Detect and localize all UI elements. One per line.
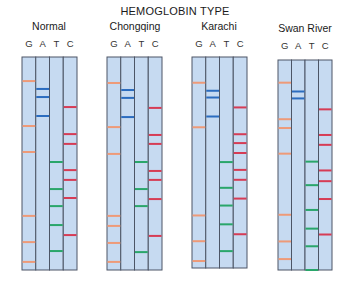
band-a	[36, 115, 49, 117]
lane-t	[135, 57, 149, 270]
band-g	[279, 240, 292, 242]
band-g	[279, 214, 292, 216]
band-c	[64, 169, 77, 171]
band-c	[64, 179, 77, 181]
band-g	[23, 151, 36, 153]
band-c	[149, 198, 162, 200]
lane-a	[206, 57, 220, 268]
band-t	[135, 205, 148, 207]
band-c	[64, 133, 77, 135]
lane-g	[192, 57, 206, 268]
band-t	[50, 250, 63, 252]
lane-c	[319, 60, 333, 270]
gel-karachi	[192, 57, 247, 268]
band-c	[149, 107, 162, 109]
band-a	[36, 88, 49, 90]
band-g	[23, 215, 36, 217]
band-c	[319, 169, 332, 171]
band-g	[108, 153, 121, 155]
band-g	[193, 240, 206, 242]
band-c	[319, 198, 332, 200]
band-t	[220, 205, 233, 207]
band-t	[135, 161, 148, 163]
band-g	[23, 261, 36, 263]
band-c	[319, 134, 332, 136]
band-c	[234, 142, 247, 144]
band-a	[206, 116, 219, 118]
band-c	[234, 106, 247, 108]
band-t	[135, 188, 148, 190]
lane-a	[121, 57, 135, 270]
band-t	[50, 224, 63, 226]
band-c	[319, 108, 332, 110]
lane-g	[278, 60, 292, 270]
band-c	[64, 234, 77, 236]
band-c	[64, 197, 77, 199]
band-g	[23, 80, 36, 82]
band-a	[121, 97, 134, 99]
band-t	[220, 187, 233, 189]
band-c	[234, 179, 247, 181]
band-c	[319, 144, 332, 146]
band-g	[108, 126, 121, 128]
lane-t	[50, 57, 64, 270]
band-c	[234, 233, 247, 235]
band-g	[193, 126, 206, 128]
band-c	[234, 198, 247, 200]
band-t	[306, 228, 319, 230]
band-c	[319, 180, 332, 182]
gel-swan-river	[278, 60, 332, 271]
lane-c	[233, 57, 247, 268]
band-a	[206, 90, 219, 92]
band-c	[234, 133, 247, 135]
band-a	[292, 91, 305, 93]
band-g	[108, 242, 121, 244]
band-t	[306, 161, 319, 163]
band-t	[135, 251, 148, 253]
band-g	[279, 127, 292, 129]
band-a	[121, 89, 134, 91]
band-g	[279, 82, 292, 84]
gel-chongqing	[107, 57, 162, 270]
band-c	[64, 143, 77, 145]
band-a	[206, 97, 219, 99]
lane-t	[305, 60, 319, 270]
band-g	[279, 153, 292, 155]
band-t	[50, 205, 63, 207]
band-t	[220, 161, 233, 163]
lane-g	[22, 57, 36, 270]
lane-c	[148, 57, 162, 270]
band-a	[121, 116, 134, 118]
band-t	[50, 161, 63, 163]
band-g	[193, 82, 206, 84]
band-g	[279, 258, 292, 260]
band-t	[306, 245, 319, 247]
gel-normal	[22, 57, 77, 270]
band-g	[23, 125, 36, 127]
band-c	[319, 234, 332, 236]
band-c	[149, 179, 162, 181]
band-t	[306, 209, 319, 211]
sequencing-gels	[0, 0, 350, 308]
lane-g	[107, 57, 121, 270]
band-c	[149, 235, 162, 237]
band-g	[108, 261, 121, 263]
band-c	[64, 106, 77, 108]
band-c	[234, 152, 247, 154]
band-g	[108, 82, 121, 84]
band-t	[220, 223, 233, 225]
band-t	[220, 250, 233, 252]
lane-c	[63, 57, 77, 270]
band-a	[292, 97, 305, 99]
band-a	[36, 96, 49, 98]
band-g	[23, 241, 36, 243]
band-c	[149, 143, 162, 145]
band-g	[193, 214, 206, 216]
band-c	[149, 134, 162, 136]
band-g	[279, 118, 292, 120]
band-g	[108, 215, 121, 217]
band-g	[193, 260, 206, 262]
band-g	[108, 225, 121, 227]
band-t	[306, 184, 319, 186]
band-c	[149, 170, 162, 172]
